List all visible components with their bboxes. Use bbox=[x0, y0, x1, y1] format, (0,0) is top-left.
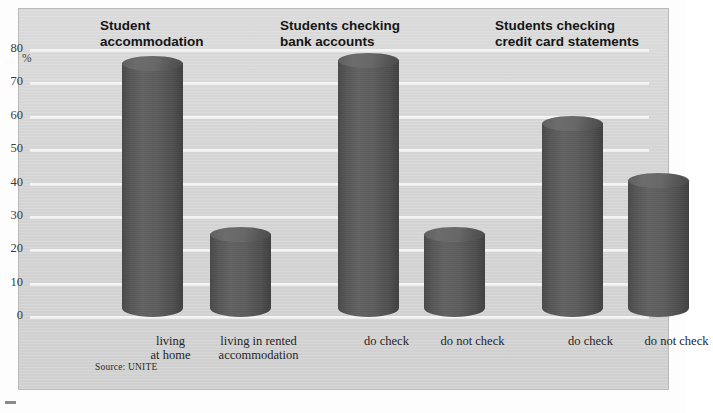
group-title-3: Students checking credit card statements bbox=[495, 18, 639, 50]
y-axis-tick-60: 60 bbox=[11, 108, 24, 123]
bar-body bbox=[628, 180, 689, 317]
category-label-4: do not check bbox=[410, 334, 535, 348]
bar-top-ellipse bbox=[210, 227, 271, 242]
bar-1 bbox=[122, 56, 183, 317]
group-title-1: Student accommodation bbox=[100, 18, 204, 50]
plot-area: 80706050403020100 bbox=[30, 50, 649, 317]
bar-body bbox=[210, 234, 271, 317]
group-title-2: Students checking bank accounts bbox=[280, 18, 400, 50]
bar-body bbox=[122, 63, 183, 317]
y-axis-tick-20: 20 bbox=[11, 241, 24, 256]
bar-top-ellipse bbox=[424, 227, 485, 242]
y-axis-tick-70: 70 bbox=[11, 74, 24, 89]
bar-6 bbox=[628, 173, 689, 317]
y-axis-tick-80: 80 bbox=[11, 41, 24, 56]
y-axis-tick-50: 50 bbox=[11, 141, 24, 156]
y-axis-tick-10: 10 bbox=[11, 275, 24, 290]
corner-mark bbox=[5, 401, 16, 404]
bar-5 bbox=[542, 116, 603, 317]
y-axis-tick-0: 0 bbox=[17, 308, 23, 323]
source-note: Source: UNITE bbox=[95, 362, 158, 372]
y-axis-tick-40: 40 bbox=[11, 175, 24, 190]
y-axis-tick-30: 30 bbox=[11, 208, 24, 223]
bar-2 bbox=[210, 227, 271, 317]
bar-3 bbox=[338, 53, 399, 317]
bar-body bbox=[424, 234, 485, 317]
category-label-6: do not check bbox=[614, 334, 713, 348]
bar-top-ellipse bbox=[338, 53, 399, 68]
category-label-2: living in rented accommodation bbox=[196, 334, 321, 362]
bar-body bbox=[338, 60, 399, 317]
bar-body bbox=[542, 123, 603, 317]
bar-4 bbox=[424, 227, 485, 317]
